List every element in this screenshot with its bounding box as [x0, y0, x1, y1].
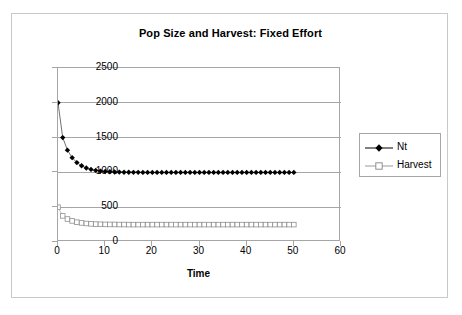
- y-axis-tick-label: 2000: [58, 97, 118, 107]
- x-axis-tick-label: 40: [226, 246, 266, 256]
- x-axis-tick-label: 60: [320, 246, 360, 256]
- x-axis-tick-label: 20: [131, 246, 171, 256]
- chart-frame: Pop Size and Harvest: Fixed Effort 05001…: [11, 13, 448, 298]
- x-axis-tick-mark: [199, 241, 200, 246]
- legend-marker-open-square-icon: [364, 158, 394, 170]
- plot-svg: [58, 68, 341, 242]
- x-axis-tick-mark: [246, 241, 247, 246]
- legend-marker-filled-diamond-icon: [364, 140, 394, 152]
- legend-item-harvest[interactable]: Harvest: [364, 156, 438, 172]
- x-axis-title: Time: [57, 268, 340, 279]
- y-axis-tick-label: 1000: [58, 166, 118, 176]
- legend-label-nt: Nt: [397, 141, 407, 152]
- x-axis-tick-label: 10: [84, 246, 124, 256]
- x-axis-tick-label: 0: [37, 246, 77, 256]
- y-axis-tick-mark: [52, 171, 57, 172]
- y-axis-tick-label: 500: [58, 201, 118, 211]
- y-axis-tick-label: 1500: [58, 132, 118, 142]
- chart-title: Pop Size and Harvest: Fixed Effort: [12, 27, 449, 39]
- legend-item-nt[interactable]: Nt: [364, 138, 438, 154]
- x-axis-tick-label: 30: [179, 246, 219, 256]
- x-axis-tick-mark: [57, 241, 58, 246]
- x-axis-tick-mark: [104, 241, 105, 246]
- chart-legend: Nt Harvest: [359, 133, 441, 177]
- x-axis-tick-mark: [340, 241, 341, 246]
- x-axis-tick-mark: [293, 241, 294, 246]
- legend-label-harvest: Harvest: [397, 159, 431, 170]
- x-axis-tick-label: 50: [273, 246, 313, 256]
- y-axis-tick-mark: [52, 137, 57, 138]
- x-axis-tick-mark: [151, 241, 152, 246]
- y-axis-tick-label: 2500: [58, 62, 118, 72]
- plot-area: [57, 67, 340, 241]
- gridlines: [58, 103, 341, 207]
- y-axis-tick-mark: [52, 102, 57, 103]
- y-axis-tick-mark: [52, 206, 57, 207]
- y-axis-tick-mark: [52, 67, 57, 68]
